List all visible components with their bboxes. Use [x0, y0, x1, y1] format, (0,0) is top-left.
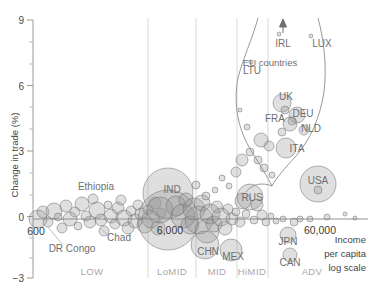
bubble-point: [192, 181, 200, 189]
label-irl: IRL: [275, 38, 291, 49]
band-adv: ADV: [302, 266, 323, 277]
band-low: LOW: [81, 266, 104, 277]
label-chad: Chad: [107, 232, 131, 243]
label-uk: UK: [279, 91, 293, 102]
label-deu: DEU: [292, 108, 313, 119]
bubble-point: [219, 175, 225, 181]
bubble-point: [278, 128, 286, 136]
irl-arrow: [280, 19, 287, 33]
bubble-point: [244, 124, 250, 130]
bubble-point: [268, 213, 274, 219]
bubble-point: [353, 216, 357, 220]
bubble-point: [269, 172, 275, 178]
bubble-point: [232, 208, 240, 216]
band-himid: HiMID: [238, 266, 266, 277]
label-ethiopia: Ethiopia: [78, 181, 115, 192]
label-fra: FRA: [265, 113, 285, 124]
bubble-point: [75, 197, 89, 211]
y-axis: [27, 20, 33, 278]
label-mex: MEX: [222, 251, 244, 262]
bubble-point: [314, 186, 322, 194]
bubble-point: [236, 154, 248, 166]
eu-countries-annotation: EU countries: [243, 57, 298, 68]
band-lomid: LoMID: [157, 266, 187, 277]
label-ind: IND: [163, 184, 180, 195]
y-axis-title: Change in trade (%): [9, 112, 20, 197]
x-tick-60000: 60,000: [304, 224, 336, 236]
label-rus: RUS: [241, 192, 262, 203]
bubble-point: [74, 222, 82, 230]
bubble-point: [212, 187, 218, 193]
label-jpn: JPN: [279, 236, 298, 247]
bubble-point: [262, 218, 270, 226]
label-ita: ITA: [290, 143, 305, 154]
bubble-point: [242, 210, 250, 218]
bubble-point: [277, 32, 281, 36]
bubble-point: [54, 213, 62, 221]
label-lux: LUX: [312, 38, 332, 49]
x-tick-600: 600: [27, 225, 45, 237]
bubble-point: [231, 167, 241, 177]
bubble-point: [297, 216, 303, 222]
y-tick-9: 9: [18, 15, 24, 26]
bubble-point: [273, 218, 279, 224]
bubble-point: [254, 133, 268, 147]
bubble-point: [238, 108, 242, 112]
label-dr-congo: DR Congo: [49, 243, 96, 254]
y-tick-neg3: −3: [13, 273, 25, 284]
x-tick-6000: 6,000: [157, 224, 183, 236]
bubble-point: [235, 217, 245, 227]
band-mid: MID: [208, 266, 227, 277]
bubble-point: [324, 214, 330, 220]
bubble-point: [250, 216, 258, 224]
bubble-point: [280, 216, 286, 222]
x-axis-title: Income per capita log scale: [324, 234, 366, 273]
y-tick-6: 6: [18, 81, 24, 92]
x-axis-title-line3: log scale: [329, 262, 367, 273]
label-can: CAN: [279, 257, 300, 268]
bubble-point: [343, 212, 347, 216]
y-tick-0: 0: [18, 212, 24, 223]
bubble-point: [116, 195, 126, 205]
bubble-point: [226, 183, 232, 189]
bubble-point: [223, 204, 233, 214]
chart-container: 9 6 3 0 −3 Change in trade (%) IRL LUX L…: [0, 0, 372, 301]
label-nld: NLD: [301, 123, 321, 134]
bubble-point: [104, 201, 112, 209]
label-chn: CHN: [197, 246, 219, 257]
bubble-point: [202, 192, 210, 200]
bubble-point: [307, 216, 313, 222]
x-axis-title-line1: Income: [335, 234, 366, 245]
label-usa: USA: [308, 175, 329, 186]
x-axis-title-line2: per capita: [324, 248, 366, 259]
bubble-scatter-chart: 9 6 3 0 −3 Change in trade (%) IRL LUX L…: [0, 0, 372, 301]
